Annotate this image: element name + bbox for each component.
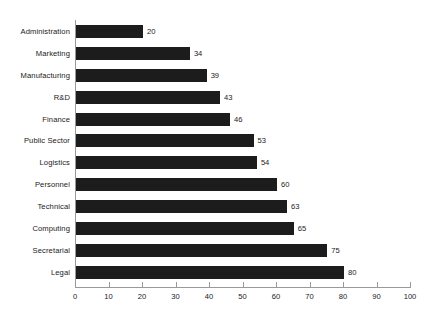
bar-row: Secretarial75 <box>0 244 438 266</box>
x-tick-mark <box>176 282 177 287</box>
bar <box>76 134 254 147</box>
x-tick-mark <box>109 282 110 287</box>
category-label: Technical <box>0 200 70 213</box>
x-tick-mark <box>410 282 411 287</box>
bar-series: Administration20Marketing34Manufacturing… <box>0 25 438 288</box>
bar-value-label: 60 <box>281 178 289 191</box>
bar <box>76 222 294 235</box>
bar <box>76 244 327 257</box>
bar-value-label: 63 <box>291 200 299 213</box>
x-tick-mark <box>310 282 311 287</box>
bar-value-label: 20 <box>147 25 155 38</box>
bar-row: Administration20 <box>0 25 438 47</box>
plot-area: Administration20Marketing34Manufacturing… <box>0 0 438 323</box>
bar-value-label: 54 <box>261 156 269 169</box>
bar-value-label: 75 <box>331 244 339 257</box>
x-tick-mark <box>209 282 210 287</box>
bar-row: Logistics54 <box>0 156 438 178</box>
bar <box>76 200 287 213</box>
category-label: Administration <box>0 25 70 38</box>
category-label: Public Sector <box>0 134 70 147</box>
bar-row: Finance46 <box>0 113 438 135</box>
bar-row: Computing65 <box>0 222 438 244</box>
category-label: Personnel <box>0 178 70 191</box>
bar-row: Public Sector53 <box>0 134 438 156</box>
category-label: Logistics <box>0 156 70 169</box>
bar <box>76 47 190 60</box>
x-axis-tick-labels: 0102030405060708090100 <box>0 291 438 303</box>
x-tick-mark <box>377 282 378 287</box>
x-tick-mark <box>276 282 277 287</box>
category-label: Finance <box>0 113 70 126</box>
bar-row: R&D43 <box>0 91 438 113</box>
x-tick-mark <box>142 282 143 287</box>
bar <box>76 25 143 38</box>
bar-value-label: 80 <box>348 266 356 279</box>
category-label: Computing <box>0 222 70 235</box>
bar-value-label: 39 <box>211 69 219 82</box>
bar-row: Manufacturing39 <box>0 69 438 91</box>
bar-value-label: 34 <box>194 47 202 60</box>
category-label: R&D <box>0 91 70 104</box>
x-tick-mark <box>75 282 76 287</box>
bar <box>76 178 277 191</box>
bar-value-label: 53 <box>258 134 266 147</box>
bar-value-label: 46 <box>234 113 242 126</box>
bar-value-label: 65 <box>298 222 306 235</box>
bar-row: Marketing34 <box>0 47 438 69</box>
category-label: Secretarial <box>0 244 70 257</box>
category-label: Legal <box>0 266 70 279</box>
bar <box>76 91 220 104</box>
bar <box>76 113 230 126</box>
bar <box>76 266 344 279</box>
bar-row: Personnel60 <box>0 178 438 200</box>
bar-value-label: 43 <box>224 91 232 104</box>
x-tick-mark <box>243 282 244 287</box>
x-tick-mark <box>343 282 344 287</box>
bar-chart: Administration20Marketing34Manufacturing… <box>0 0 438 323</box>
x-tick-label: 100 <box>390 291 430 302</box>
category-label: Manufacturing <box>0 69 70 82</box>
bar <box>76 69 207 82</box>
bar-row: Technical63 <box>0 200 438 222</box>
category-label: Marketing <box>0 47 70 60</box>
x-axis-tick-marks <box>0 282 438 288</box>
bar <box>76 156 257 169</box>
